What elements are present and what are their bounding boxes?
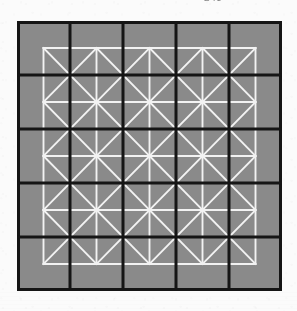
lattice-figure-canvas: [17, 21, 282, 291]
lattice-figure: [17, 21, 282, 291]
white-lattice-layer: [44, 48, 256, 264]
